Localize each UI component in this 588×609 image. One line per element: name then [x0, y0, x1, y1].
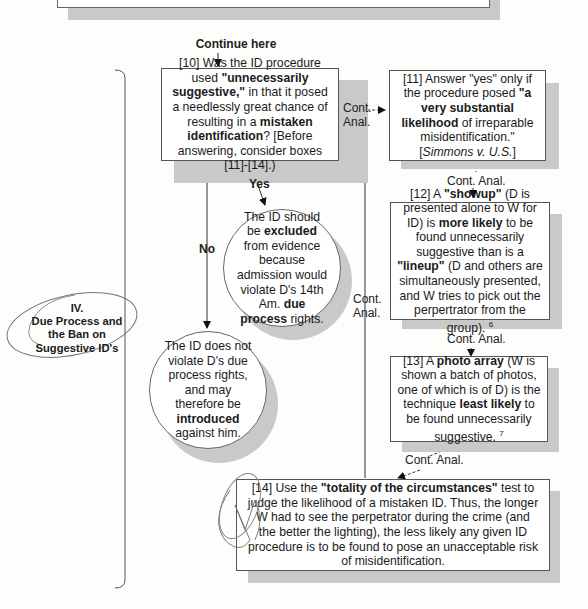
section-title: IV. Due Process and the Ban on Suggestiv…	[22, 302, 132, 355]
